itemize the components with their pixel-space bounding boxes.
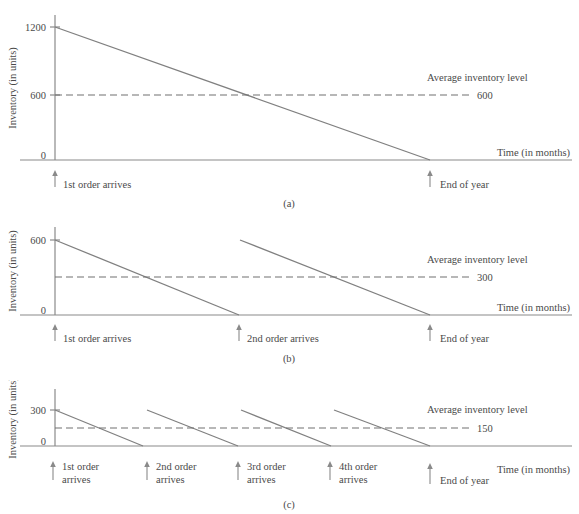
end-of-year-marker-b: [427, 324, 433, 341]
order-marker-1-c: [50, 461, 56, 480]
panel-b: 600 0 Average inventory level 300 Time (…: [0, 215, 579, 365]
end-of-year-label-a: End of year: [440, 179, 489, 190]
chart-a: 1200 600 0 Average inventory level 600 T…: [0, 0, 579, 210]
y-tick-label-0-c: 0: [41, 436, 46, 447]
y-tick-label-300-c: 300: [30, 405, 46, 416]
x-axis-label-c: Time (in months): [497, 464, 571, 476]
order-marker-2-c: [144, 461, 150, 480]
end-of-year-label-c: End of year: [440, 475, 489, 486]
order-marker-2-label-line1-c: 2nd order: [156, 461, 197, 472]
order-marker-4-c: [327, 461, 333, 480]
panel-c: 300 0 Average inventory level 150 Time (…: [0, 380, 579, 514]
order-marker-3-c: [235, 461, 241, 480]
average-inventory-value-c: 150: [477, 423, 493, 434]
order-marker-3-label-line1-c: 3rd order: [247, 461, 286, 472]
average-inventory-value-b: 300: [477, 272, 493, 283]
y-tick-label-600-a: 600: [30, 90, 46, 101]
order-marker-2-b: [236, 324, 242, 341]
panel-caption-b: (b): [283, 353, 296, 365]
average-inventory-label-b: Average inventory level: [427, 254, 528, 265]
order-marker-2-label-b: 2nd order arrives: [247, 333, 319, 344]
y-axis-label-c: Inventory (in units): [7, 380, 19, 459]
panel-caption-a: (a): [283, 198, 295, 210]
inventory-line-cycle-1-a: [55, 27, 430, 160]
average-inventory-label-a: Average inventory level: [427, 72, 528, 83]
y-tick-label-0-b: 0: [41, 305, 46, 316]
y-tick-label-0-a: 0: [41, 150, 46, 161]
inventory-line-cycle-4-c: [334, 410, 430, 446]
y-tick-label-600-b: 600: [30, 235, 46, 246]
y-axis-label-b: Inventory (in units): [7, 230, 19, 312]
y-tick-label-1200-a: 1200: [25, 22, 46, 33]
chart-c: 300 0 Average inventory level 150 Time (…: [0, 380, 579, 514]
order-marker-1-b: [52, 324, 58, 341]
order-marker-1-label-b: 1st order arrives: [63, 333, 131, 344]
order-marker-1-label-line1-c: 1st order: [62, 461, 100, 472]
end-of-year-marker-c: [427, 463, 433, 484]
panel-caption-c: (c): [283, 499, 295, 511]
panel-a: 1200 600 0 Average inventory level 600 T…: [0, 0, 579, 210]
y-axis-label-a: Inventory (in units): [7, 47, 19, 129]
x-axis-label-b: Time (in months): [497, 302, 571, 314]
end-of-year-marker-a: [427, 170, 433, 187]
order-marker-2-label-line2-c: arrives: [156, 474, 185, 485]
order-marker-4-label-line2-c: arrives: [339, 474, 368, 485]
order-marker-4-label-line1-c: 4th order: [339, 461, 378, 472]
order-marker-1-a: [52, 170, 58, 187]
order-marker-1-label-line2-c: arrives: [62, 474, 91, 485]
average-inventory-value-a: 600: [477, 90, 493, 101]
order-marker-3-label-line2-c: arrives: [247, 474, 276, 485]
average-inventory-label-c: Average inventory level: [427, 404, 528, 415]
chart-b: 600 0 Average inventory level 300 Time (…: [0, 215, 579, 365]
order-marker-1-label-a: 1st order arrives: [63, 179, 131, 190]
x-axis-label-a: Time (in months): [497, 147, 571, 159]
end-of-year-label-b: End of year: [440, 333, 489, 344]
